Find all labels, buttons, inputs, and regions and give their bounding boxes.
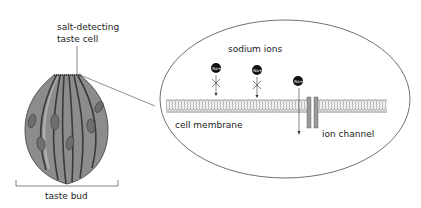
ion-channel-left bbox=[307, 97, 311, 128]
svg-text:Na+: Na+ bbox=[294, 79, 303, 84]
arrow-down-icon bbox=[298, 131, 301, 135]
cell-membrane bbox=[166, 99, 311, 113]
sodium-ion-blocked-2: Na+ bbox=[252, 65, 262, 98]
cell-membrane-label: cell membrane bbox=[175, 120, 243, 130]
taste-cell-label-1: salt-detecting bbox=[57, 22, 119, 32]
taste-bud-label: taste bud bbox=[45, 191, 88, 201]
ion-channel-right bbox=[314, 97, 318, 128]
cell-membrane-right bbox=[317, 99, 387, 113]
svg-text:Na+: Na+ bbox=[253, 68, 262, 73]
svg-text:Na+: Na+ bbox=[212, 66, 221, 71]
taste-cell-label-2: taste cell bbox=[57, 34, 98, 44]
taste-bud-diagram: salt-detecting taste cell taste bud sodi… bbox=[0, 0, 421, 208]
ion-channel-label: ion channel bbox=[322, 129, 374, 139]
sodium-ions-label: sodium ions bbox=[228, 44, 282, 54]
sodium-ion-blocked-1: Na+ bbox=[211, 63, 221, 96]
taste-bud bbox=[25, 75, 108, 184]
